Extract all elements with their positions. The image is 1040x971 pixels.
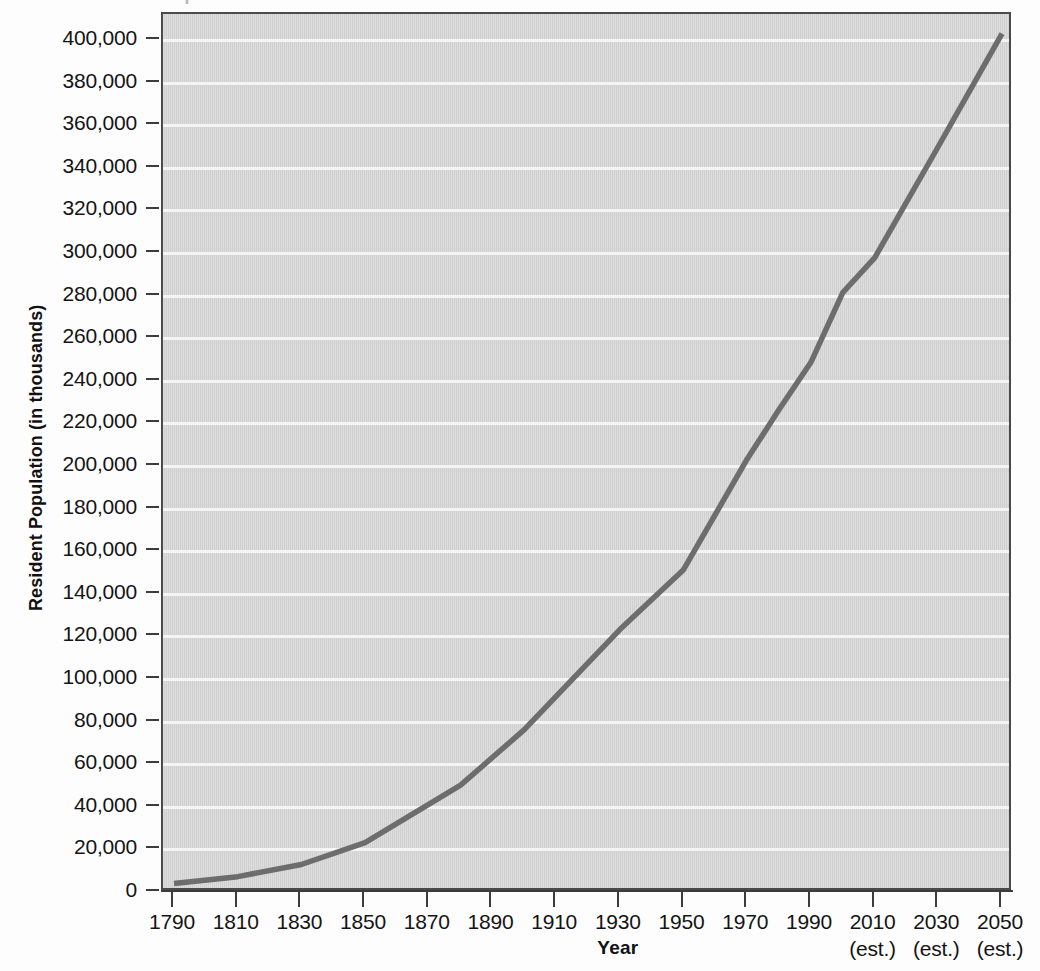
- data-line: [174, 34, 1002, 884]
- y-axis-tick-label: 160,000: [5, 538, 137, 559]
- x-axis-tick-mark: [872, 892, 874, 907]
- x-axis-tick-mark: [617, 892, 619, 907]
- y-axis-tick-mark: [146, 293, 159, 295]
- x-axis-tick-mark: [426, 892, 428, 907]
- x-axis-tick-mark: [171, 892, 173, 907]
- x-axis-tick-mark: [999, 892, 1001, 907]
- y-axis-tick-mark: [146, 122, 159, 124]
- x-axis-tick-mark: [235, 892, 237, 907]
- x-axis-tick-mark: [553, 892, 555, 907]
- y-axis-tick-mark: [146, 506, 159, 508]
- y-axis-tick-mark: [146, 761, 159, 763]
- y-axis-tick-mark: [146, 633, 159, 635]
- y-axis-tick-label: 240,000: [5, 368, 137, 389]
- y-axis-tick-mark: [146, 548, 159, 550]
- x-axis-tick-mark: [808, 892, 810, 907]
- y-axis-tick-mark: [146, 889, 159, 891]
- x-axis-line: [161, 890, 1013, 892]
- y-axis-tick-mark: [146, 335, 159, 337]
- y-axis-tick-label: 340,000: [5, 155, 137, 176]
- y-axis-tick-label: 220,000: [5, 410, 137, 431]
- y-axis-tick-mark: [146, 676, 159, 678]
- x-axis-tick-mark: [681, 892, 683, 907]
- y-axis-tick-label: 20,000: [5, 836, 137, 857]
- y-axis-tick-label: 100,000: [5, 666, 137, 687]
- x-axis-tick-mark: [935, 892, 937, 907]
- x-axis-tick-mark: [298, 892, 300, 907]
- x-axis-tick-label: 2050: [950, 910, 1040, 934]
- y-axis-tick-mark: [146, 804, 159, 806]
- y-axis-tick-mark: [146, 207, 159, 209]
- y-axis-tick-label: 180,000: [5, 496, 137, 517]
- y-axis-tick-label: 140,000: [5, 581, 137, 602]
- cut-off-title-text: Population Growth of the United States: [160, 0, 514, 5]
- population-line-series: [163, 14, 1011, 890]
- y-axis-tick-mark: [146, 378, 159, 380]
- y-axis-tick-mark: [146, 591, 159, 593]
- y-axis-tick-label: 280,000: [5, 283, 137, 304]
- x-axis-tick-mark: [489, 892, 491, 907]
- y-axis-tick-label: 320,000: [5, 197, 137, 218]
- y-axis-tick-mark: [146, 420, 159, 422]
- y-axis-tick-label: 40,000: [5, 794, 137, 815]
- y-axis-tick-label: 380,000: [5, 70, 137, 91]
- y-axis-tick-label: 300,000: [5, 240, 137, 261]
- y-axis-tick-mark: [146, 250, 159, 252]
- y-axis-tick-mark: [146, 719, 159, 721]
- x-axis-title: Year: [518, 937, 718, 959]
- y-axis-tick-label: 260,000: [5, 325, 137, 346]
- y-axis-tick-mark: [146, 846, 159, 848]
- y-axis-tick-mark: [146, 37, 159, 39]
- x-axis-tick-mark: [362, 892, 364, 907]
- y-axis-tick-mark: [146, 165, 159, 167]
- y-axis-tick-mark: [146, 80, 159, 82]
- y-axis-tick-label: 60,000: [5, 751, 137, 772]
- y-axis-tick-label: 200,000: [5, 453, 137, 474]
- plot-area: [161, 12, 1011, 890]
- y-axis-tick-mark: [146, 463, 159, 465]
- chart-root: Population Growth of the United States R…: [0, 0, 1040, 971]
- y-axis-tick-label: 0: [5, 879, 137, 900]
- y-axis-tick-label: 400,000: [5, 27, 137, 48]
- y-axis-tick-label: 360,000: [5, 112, 137, 133]
- y-axis-tick-label: 120,000: [5, 623, 137, 644]
- y-axis-tick-label: 80,000: [5, 709, 137, 730]
- cut-off-title-sliver: Population Growth of the United States: [0, 0, 1040, 7]
- x-axis-tick-mark: [744, 892, 746, 907]
- x-axis-tick-sublabel: (est.): [950, 937, 1040, 961]
